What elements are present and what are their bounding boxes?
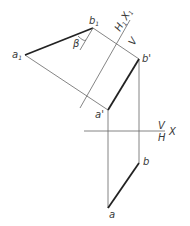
label-b: b [143,156,149,167]
label-axis-x: X [168,126,177,137]
svg-text:H1X1: H1X1 [112,7,134,34]
label-axis-v: V [158,120,166,131]
label-bprime: b' [142,53,151,64]
projector-a1-aprime [25,55,108,110]
segment-aprime-bprime [108,59,139,110]
label-a: a [109,209,115,220]
label-beta: β [72,38,80,49]
label-aprime: a' [95,109,104,120]
projection-diagram: b1 a1 β b' a' b a V H X H1X1 V [0,0,190,226]
segment-ab [108,163,139,208]
x1-axis [80,20,130,108]
label-a1: a1 [12,49,22,61]
label-axis-h: H [158,132,166,143]
segment-a1b1 [25,28,93,55]
label-b1: b1 [89,15,99,27]
svg-text:V: V [126,35,140,47]
x1-axis-lower-label: V [126,35,140,47]
x1-axis-labels: H1X1 [112,7,134,34]
